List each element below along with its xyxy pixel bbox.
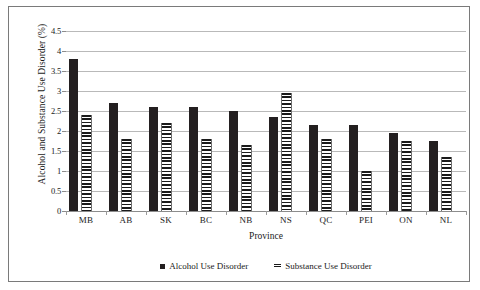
bar-alcohol-use-disorder [189, 107, 198, 211]
y-axis-tick-label: 4.5 [35, 27, 61, 36]
bar-group [386, 31, 426, 211]
bar-substance-use-disorder [81, 115, 92, 211]
y-axis-tick-labels: 00.511.522.533.544.5 [31, 31, 61, 211]
bar-group [266, 31, 306, 211]
bar-alcohol-use-disorder [269, 117, 278, 211]
legend-swatch-striped-icon [274, 264, 281, 268]
figure-frame: Alcohol and Substance Use Disorder (%) 0… [8, 6, 470, 282]
bar-substance-use-disorder [121, 139, 132, 211]
bar-substance-use-disorder [401, 141, 412, 211]
y-axis-tick-mark [62, 51, 66, 52]
x-axis-tick-mark [306, 211, 307, 215]
bar-alcohol-use-disorder [149, 107, 158, 211]
y-axis-tick-mark [62, 91, 66, 92]
x-axis-tick-mark [266, 211, 267, 215]
y-axis-tick-label: 3 [35, 87, 61, 96]
legend-entry: Substance Use Disorder [274, 261, 371, 271]
plot-area [66, 31, 466, 211]
bar-substance-use-disorder [441, 157, 452, 211]
x-axis-tick-mark [146, 211, 147, 215]
x-axis-tick-mark [386, 211, 387, 215]
x-axis-tick-mark [346, 211, 347, 215]
x-axis-tick-mark [226, 211, 227, 215]
legend-entry: Alcohol Use Disorder [160, 261, 248, 271]
x-axis-tick-mark [466, 211, 467, 215]
legend-label: Alcohol Use Disorder [169, 261, 248, 271]
y-axis-tick-label: 4 [35, 47, 61, 56]
bar-alcohol-use-disorder [389, 133, 398, 211]
bar-group [186, 31, 226, 211]
bar-substance-use-disorder [361, 171, 372, 211]
y-axis-tick-mark [62, 171, 66, 172]
bar-substance-use-disorder [321, 139, 332, 211]
x-axis-tick-label: NS [266, 215, 306, 226]
bar-group [346, 31, 386, 211]
chart-legend: Alcohol Use DisorderSubstance Use Disord… [66, 259, 466, 273]
x-axis-tick-labels: MBABSKBCNBNSQCPEIONNL [66, 215, 466, 229]
y-axis-tick-label: 2 [35, 127, 61, 136]
x-axis-tick-label: MB [66, 215, 106, 226]
bar-substance-use-disorder [201, 139, 212, 211]
y-axis-tick-label: 3.5 [35, 67, 61, 76]
x-axis-tick-label: NL [426, 215, 466, 226]
bar-alcohol-use-disorder [309, 125, 318, 211]
bar-substance-use-disorder [161, 123, 172, 211]
x-axis-tick-label: AB [106, 215, 146, 226]
x-axis-tick-mark [186, 211, 187, 215]
y-axis-tick-mark [62, 31, 66, 32]
x-axis-tick-label: ON [386, 215, 426, 226]
x-axis-title: Province [66, 231, 466, 242]
bar-alcohol-use-disorder [349, 125, 358, 211]
x-axis-tick-label: PEI [346, 215, 386, 226]
bar-group [426, 31, 466, 211]
x-axis-tick-label: NB [226, 215, 266, 226]
y-axis-tick-mark [62, 131, 66, 132]
y-axis-tick-mark [62, 151, 66, 152]
bar-alcohol-use-disorder [429, 141, 438, 211]
x-axis-tick-label: BC [186, 215, 226, 226]
bar-substance-use-disorder [281, 93, 292, 211]
x-axis-tick-mark [106, 211, 107, 215]
y-axis-tick-label: 0 [35, 207, 61, 216]
y-axis-tick-label: 2.5 [35, 107, 61, 116]
bar-alcohol-use-disorder [109, 103, 118, 211]
bar-group [146, 31, 186, 211]
bar-group [66, 31, 106, 211]
x-axis-tick-label: SK [146, 215, 186, 226]
bar-group [226, 31, 266, 211]
legend-label: Substance Use Disorder [285, 261, 371, 271]
y-axis-tick-label: 1.5 [35, 147, 61, 156]
legend-swatch-solid-icon [160, 264, 165, 269]
y-axis-tick-mark [62, 71, 66, 72]
x-axis-tick-label: QC [306, 215, 346, 226]
y-axis-tick-label: 1 [35, 167, 61, 176]
y-axis-tick-label: 0.5 [35, 187, 61, 196]
bar-alcohol-use-disorder [229, 111, 238, 211]
bar-substance-use-disorder [241, 145, 252, 211]
x-axis-tick-mark [66, 211, 67, 215]
x-axis-tick-mark [426, 211, 427, 215]
y-axis-tick-mark [62, 111, 66, 112]
y-axis-tick-mark [62, 191, 66, 192]
bar-group [106, 31, 146, 211]
bar-alcohol-use-disorder [69, 59, 78, 211]
bar-group [306, 31, 346, 211]
